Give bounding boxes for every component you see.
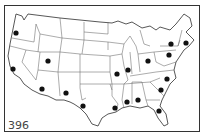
location-dot-oregon [13,30,18,35]
location-dot-louisiana [112,105,117,110]
location-dot-north-carolina [164,76,169,81]
location-dot-ohio [145,58,150,63]
location-dot-illinois [125,67,130,72]
location-dot-missouri [114,71,119,76]
state-borders [10,18,182,112]
location-dot-utah [45,58,50,63]
location-dot-new-york [168,41,173,46]
location-dot-massachusetts [183,40,188,45]
location-dot-mississippi [124,99,129,104]
location-dot-texas [80,103,85,108]
location-dot-california [10,66,15,71]
location-dot-arizona [39,86,44,91]
location-dot-florida [156,108,161,113]
us-outline [8,14,194,126]
us-map [0,0,204,139]
location-dot-new-mexico [63,90,68,95]
location-dot-alabama [135,97,140,102]
location-dot-south-carolina [158,87,163,92]
figure-number-label: 396 [8,119,29,132]
location-dot-pennsylvania [166,52,171,57]
